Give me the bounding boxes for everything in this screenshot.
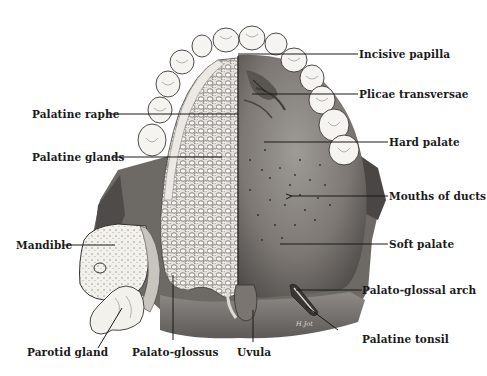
label-palato-glossal-arch: Palato-glossal arch xyxy=(362,284,476,296)
label-palatine-tonsil: Palatine tonsil xyxy=(362,333,449,345)
label-mouths-of-ducts: Mouths of ducts xyxy=(389,190,486,202)
label-mandible: Mandible xyxy=(16,239,72,251)
label-palato-glossus: Palato-glossus xyxy=(132,346,219,358)
label-parotid-gland: Parotid gland xyxy=(27,346,108,358)
label-incisive-papilla: Incisive papilla xyxy=(359,48,450,60)
label-palatine-glands: Palatine glands xyxy=(32,151,125,163)
label-uvula: Uvula xyxy=(237,346,271,358)
artist-signature: H.Jot xyxy=(295,320,313,328)
label-hard-palate: Hard palate xyxy=(389,136,460,148)
uvula xyxy=(234,285,257,321)
label-soft-palate: Soft palate xyxy=(389,238,454,250)
label-palatine-raphe: Palatine raphe xyxy=(32,108,119,120)
mandible-section xyxy=(80,224,149,300)
label-plicae-transversae: Plicae transversae xyxy=(359,88,469,100)
anatomical-figure: H.Jot xyxy=(0,0,487,376)
